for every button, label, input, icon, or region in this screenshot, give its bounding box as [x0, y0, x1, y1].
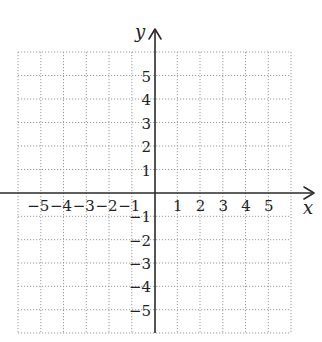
y-tick-label: 4: [141, 91, 151, 109]
y-tick-label: −4: [129, 278, 151, 296]
y-axis-label: y: [134, 21, 146, 42]
coordinate-plane: x y −5−4−3−2−112345 54321−1−2−3−4−5: [0, 0, 322, 342]
y-tick-label: 2: [141, 138, 151, 156]
y-tick-label: 1: [141, 162, 151, 180]
x-tick-label: 3: [219, 197, 229, 215]
x-tick-label: 4: [241, 197, 251, 215]
x-tick-label: −2: [95, 197, 117, 215]
x-tick-label: 5: [264, 197, 274, 215]
y-tick-label: −1: [129, 208, 151, 226]
x-tick-label: −4: [50, 197, 72, 215]
y-tick-label: −2: [129, 232, 151, 250]
y-tick-label: 3: [141, 115, 151, 133]
axes: [0, 29, 314, 333]
x-axis-label: x: [303, 197, 313, 218]
y-tick-label: 5: [141, 68, 151, 86]
x-tick-label: −5: [27, 197, 49, 215]
x-tick-label: 1: [173, 197, 183, 215]
x-tick-label: 2: [196, 197, 206, 215]
x-tick-label: −3: [73, 197, 95, 215]
y-tick-label: −5: [129, 302, 151, 320]
labels: x y: [134, 21, 313, 218]
y-tick-label: −3: [129, 255, 151, 273]
